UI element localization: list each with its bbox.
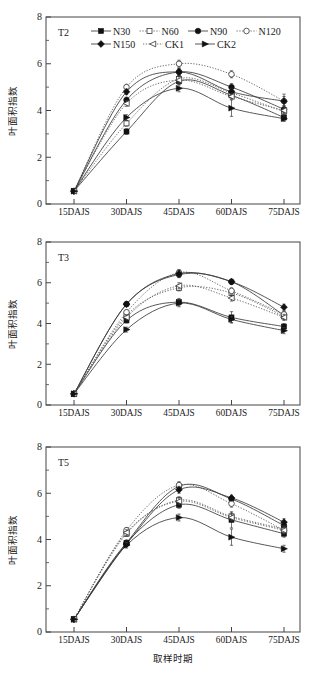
x-tick-label: 45DAJS xyxy=(163,207,195,217)
legend-marker-ck1 xyxy=(150,41,156,47)
legend-marker-n90 xyxy=(195,28,201,34)
legend-label-n60: N60 xyxy=(162,26,179,37)
y-tick-label: 8 xyxy=(37,11,42,22)
panel-t5: 02468T515DAJS30DAJS45DAJS60DAJS75DAJS叶面积… xyxy=(7,441,300,645)
legend-marker-n150 xyxy=(98,41,105,48)
legend-label-n90: N90 xyxy=(210,26,227,37)
x-tick-label: 60DAJS xyxy=(216,635,248,645)
x-axis-title: 取样时期 xyxy=(153,653,193,664)
series-line-n90 xyxy=(74,273,284,394)
series-line-ck2 xyxy=(74,517,284,619)
legend-marker-ck2 xyxy=(202,41,208,47)
data-point-n150 xyxy=(176,69,183,76)
series-line-ck1 xyxy=(74,80,284,191)
x-tick-label: 75DAJS xyxy=(268,207,300,217)
x-tick-label: 15DAJS xyxy=(58,408,90,418)
series-line-n30 xyxy=(74,302,284,394)
leaf-area-index-figure: 02468T215DAJS30DAJS45DAJS60DAJS75DAJS叶面积… xyxy=(0,0,319,689)
data-point-n150 xyxy=(228,278,235,285)
series-markers-ck2 xyxy=(71,514,287,622)
y-tick-label: 8 xyxy=(37,236,42,247)
series-line-ck2 xyxy=(74,303,284,394)
x-axis-labels: 15DAJS30DAJS45DAJS60DAJS75DAJS xyxy=(58,408,300,418)
data-point-n120 xyxy=(124,309,130,315)
x-tick-label: 30DAJS xyxy=(111,635,143,645)
data-point-n150 xyxy=(281,98,288,105)
x-tick-label: 60DAJS xyxy=(216,207,248,217)
legend-label-n150: N150 xyxy=(113,39,135,50)
y-tick-label: 0 xyxy=(37,198,42,209)
data-point-n120 xyxy=(176,61,182,67)
series-markers-n30 xyxy=(72,298,287,396)
x-tick-label: 45DAJS xyxy=(163,408,195,418)
panel-label: T2 xyxy=(58,27,69,38)
data-point-n120 xyxy=(229,288,235,294)
y-axis-title: 叶面积指数 xyxy=(7,515,18,565)
legend-label-ck2: CK2 xyxy=(217,39,236,50)
x-tick-label: 30DAJS xyxy=(111,207,143,217)
y-tick-label: 2 xyxy=(37,359,42,370)
x-axis-labels: 15DAJS30DAJS45DAJS60DAJS75DAJS xyxy=(58,207,300,217)
panel-label: T3 xyxy=(58,252,69,263)
y-tick-label: 2 xyxy=(37,580,42,591)
legend-label-ck1: CK1 xyxy=(165,39,184,50)
x-tick-label: 75DAJS xyxy=(268,408,300,418)
y-tick-label: 6 xyxy=(37,58,42,69)
legend-marker-n30 xyxy=(99,29,104,34)
legend-marker-n120 xyxy=(244,28,250,34)
y-tick-label: 2 xyxy=(37,152,42,163)
legend-label-n30: N30 xyxy=(113,26,130,37)
legend-marker-n60 xyxy=(147,29,152,34)
legend: N30N60N90N120N150CK1CK2 xyxy=(91,26,281,50)
data-point-n150 xyxy=(281,304,288,311)
x-tick-label: 30DAJS xyxy=(111,408,143,418)
series-markers-ck1 xyxy=(71,77,287,194)
y-tick-label: 6 xyxy=(37,488,42,499)
x-tick-label: 15DAJS xyxy=(58,635,90,645)
y-tick-label: 8 xyxy=(37,441,42,452)
data-point-n120 xyxy=(229,71,235,77)
panel-label: T5 xyxy=(58,457,69,468)
x-tick-label: 45DAJS xyxy=(163,635,195,645)
y-tick-label: 4 xyxy=(37,105,42,116)
panel-t3: 02468T315DAJS30DAJS45DAJS60DAJS75DAJS叶面积… xyxy=(7,236,300,418)
x-tick-label: 60DAJS xyxy=(216,408,248,418)
data-point-n60 xyxy=(124,121,129,126)
x-tick-label: 15DAJS xyxy=(58,207,90,217)
x-axis-labels: 15DAJS30DAJS45DAJS60DAJS75DAJS xyxy=(58,635,300,645)
legend-label-n120: N120 xyxy=(259,26,281,37)
y-tick-label: 4 xyxy=(37,318,42,329)
data-point-n30 xyxy=(124,129,129,134)
y-tick-label: 0 xyxy=(37,399,42,410)
y-axis-title: 叶面积指数 xyxy=(7,86,18,136)
y-tick-label: 6 xyxy=(37,277,42,288)
y-tick-label: 0 xyxy=(37,626,42,637)
y-axis-title: 叶面积指数 xyxy=(7,299,18,349)
x-tick-label: 75DAJS xyxy=(268,635,300,645)
figure-root: 02468T215DAJS30DAJS45DAJS60DAJS75DAJS叶面积… xyxy=(0,0,319,689)
y-tick-label: 4 xyxy=(37,534,42,545)
